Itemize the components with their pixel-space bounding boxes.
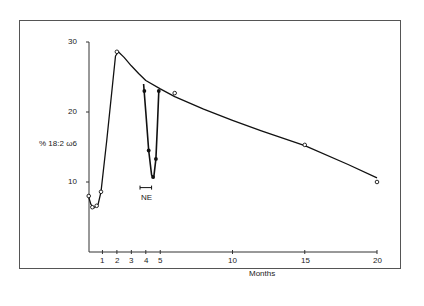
y-tick-20: 20 — [68, 108, 77, 116]
open-circle-marker — [95, 204, 99, 208]
x-tick-10: 10 — [228, 257, 237, 265]
open-circle-marker — [115, 50, 119, 54]
ne-period-bar — [140, 186, 152, 190]
ne-curve — [144, 84, 159, 178]
y-axis-label: % 18:2 ω6 — [39, 140, 77, 148]
x-tick-15: 15 — [301, 257, 310, 265]
open-circle-marker — [173, 91, 177, 95]
open-circle-marker — [91, 205, 95, 209]
x-tick-5: 5 — [158, 257, 162, 265]
filled-circle-marker — [147, 149, 151, 153]
filled-circle-marker — [142, 89, 146, 93]
data-curves — [88, 52, 377, 208]
x-tick-2: 2 — [115, 257, 119, 265]
filled-circle-marker — [154, 157, 158, 161]
ne-annotation-label: NE — [141, 194, 152, 202]
trend-curve — [88, 52, 377, 208]
filled-circle-marker — [157, 89, 161, 93]
open-circle-marker — [87, 194, 91, 198]
open-circle-marker — [375, 180, 379, 184]
filled-circle-marker — [151, 175, 155, 179]
x-axis-label: Months — [249, 270, 275, 278]
open-circle-marker — [99, 190, 103, 194]
x-tick-20: 20 — [373, 257, 382, 265]
y-tick-30: 30 — [68, 38, 77, 46]
x-tick-4: 4 — [144, 257, 148, 265]
x-tick-3: 3 — [129, 257, 133, 265]
plot-area — [0, 0, 424, 306]
y-tick-10: 10 — [68, 178, 77, 186]
x-tick-1: 1 — [100, 257, 104, 265]
data-markers — [87, 50, 379, 209]
axes — [86, 42, 377, 254]
open-circle-marker — [303, 143, 307, 147]
